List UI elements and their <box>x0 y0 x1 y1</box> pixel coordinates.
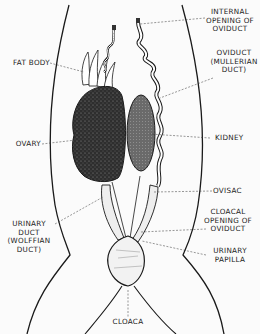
label-internal-opening-of-oviduct: INTERNAL OPENING OF OVIDUCT <box>200 8 260 34</box>
urogenital-diagram: FAT BODY OVARY URINARY DUCT (WOLFFIAN DU… <box>0 0 260 334</box>
right-ovisac <box>132 185 158 242</box>
label-cloaca: CLOACA <box>104 318 152 327</box>
left-ovisac <box>102 185 124 240</box>
kidney <box>127 95 155 171</box>
ovary <box>72 86 125 181</box>
label-cloacal-opening-of-oviduct: CLOACAL OPENING OF OVIDUCT <box>198 208 258 234</box>
label-kidney: KIDNEY <box>215 134 243 143</box>
body-outline-left <box>27 5 70 334</box>
cloaca-neck <box>85 286 176 334</box>
label-oviduct-mullerian: OVIDUCT (MULLERIAN DUCT) <box>206 49 260 75</box>
fat-body <box>82 50 115 90</box>
label-ovary: OVARY <box>4 140 41 149</box>
label-ovisac: OVISAC <box>213 187 242 196</box>
cloaca-bulb <box>108 236 145 286</box>
label-fat-body: FAT BODY <box>4 59 50 68</box>
label-urinary-duct: URINARY DUCT (WOLFFIAN DUCT) <box>2 220 56 254</box>
label-urinary-papilla: URINARY PAPILLA <box>204 247 256 264</box>
